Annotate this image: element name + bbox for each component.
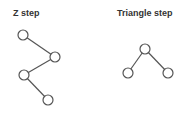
node-circle bbox=[18, 30, 28, 40]
triangle-step-diagram bbox=[123, 44, 173, 78]
node-circle bbox=[19, 70, 29, 80]
node-circle bbox=[50, 52, 60, 62]
node-circle bbox=[123, 68, 133, 78]
z-step-diagram bbox=[18, 30, 60, 105]
diagram-canvas bbox=[0, 0, 185, 117]
node-circle bbox=[140, 44, 150, 54]
node-circle bbox=[43, 95, 53, 105]
node-circle bbox=[163, 68, 173, 78]
edge bbox=[23, 35, 55, 57]
